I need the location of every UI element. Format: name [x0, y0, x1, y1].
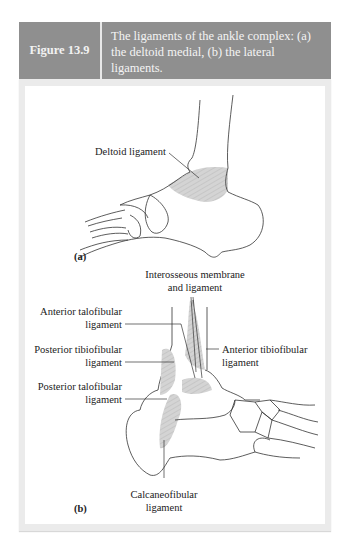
label-anterior-tibiofibular: Anterior tibiofibular ligament — [222, 343, 307, 369]
panel-b-tag: (b) — [74, 502, 87, 515]
label-line: ligament — [22, 393, 122, 406]
label-calcaneofibular: Calcaneofibular ligament — [124, 488, 204, 514]
label-deltoid-ligament: Deltoid ligament — [95, 145, 166, 158]
label-line: and ligament — [140, 281, 250, 294]
label-anterior-talofibular: Anterior talofibular ligament — [22, 305, 122, 331]
label-interosseous-membrane: Interosseous membrane and ligament — [140, 268, 250, 294]
lateral-foot-drawing — [126, 300, 318, 475]
label-line: ligament — [22, 356, 122, 369]
label-line: ligament — [124, 501, 204, 514]
panel-a-tag: (a) — [74, 250, 86, 263]
label-line: ligament — [22, 318, 122, 331]
medial-foot-drawing — [78, 95, 263, 258]
label-posterior-tibiofibular: Posterior tibiofibular ligament — [22, 343, 122, 369]
label-line: ligament — [222, 356, 307, 369]
label-line: Calcaneofibular — [124, 488, 204, 501]
label-line: Interosseous membrane — [140, 268, 250, 281]
label-line: Posterior tibiofibular — [22, 343, 122, 356]
label-posterior-talofibular: Posterior talofibular ligament — [22, 380, 122, 406]
label-line: Posterior talofibular — [22, 380, 122, 393]
label-line: Anterior tibiofibular — [222, 343, 307, 356]
label-line: Anterior talofibular — [22, 305, 122, 318]
